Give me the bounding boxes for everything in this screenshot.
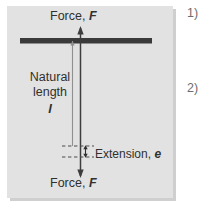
label-extension-symbol: e — [154, 147, 161, 161]
label-force-top-symbol: F — [89, 9, 97, 23]
force-arrowhead-up-icon — [77, 26, 83, 35]
list-item-marker-2: 2) — [187, 81, 198, 95]
diagram-panel: Force, F Natural length l Extension, e F… — [7, 6, 173, 198]
label-force-bottom-symbol: F — [89, 176, 97, 190]
label-natural-line1: Natural — [30, 70, 70, 84]
label-natural-line2: length — [33, 85, 67, 99]
label-force-top-text: Force, — [50, 9, 89, 23]
figure-root: Force, F Natural length l Extension, e F… — [0, 0, 210, 207]
label-force-bottom: Force, F — [50, 177, 97, 190]
label-natural-symbol: l — [21, 101, 79, 116]
label-natural-length: Natural length l — [21, 70, 79, 116]
support-bar-icon — [20, 38, 152, 44]
label-extension-text: Extension, — [95, 147, 154, 161]
list-item-marker-1: 1) — [187, 6, 198, 20]
label-extension: Extension, e — [95, 148, 161, 161]
label-force-bottom-text: Force, — [50, 176, 89, 190]
label-force-top: Force, F — [50, 10, 97, 23]
